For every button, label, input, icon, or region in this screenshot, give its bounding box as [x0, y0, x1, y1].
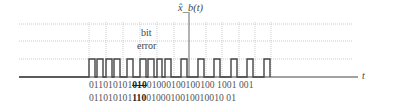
axis-label-t: t [362, 70, 365, 81]
signal-label: x̂_b(t) [178, 2, 203, 13]
bit-error-label-line1: bit [141, 27, 152, 38]
received-bits-after: 01000100100100 1001 001 [147, 79, 254, 90]
pulse-waveform [19, 59, 270, 77]
received-bits-before: 011010101 [89, 79, 132, 90]
waveform-diagram [0, 0, 401, 107]
transmitted-bits-after: 0100010010010010 01 [146, 92, 236, 103]
transmitted-bits-before: 011010101 [89, 92, 132, 103]
bit-error-label-line2: error [137, 40, 156, 51]
received-bit-sequence: 01101010101001000100100100 1001 001 [89, 79, 254, 90]
horizontal-gridlines [19, 24, 352, 59]
transmitted-bit-sequence: 0110101011100100010010010010 01 [89, 92, 236, 103]
received-bits-error: 010 [132, 79, 147, 90]
signal-label-text: x̂_b(t) [178, 2, 203, 13]
vertical-gridlines [89, 22, 271, 77]
transmitted-bits-error: 110 [132, 92, 146, 103]
